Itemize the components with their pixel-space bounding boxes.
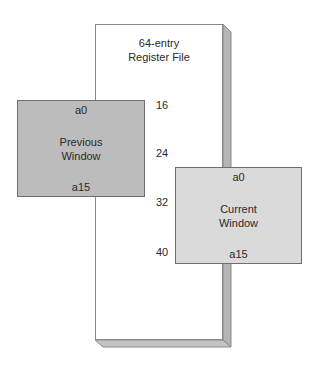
current-window-box: a0 Current Window a15 <box>175 167 302 264</box>
current-window-label-line1: Current <box>176 202 301 216</box>
index-label-16: 16 <box>152 99 172 111</box>
previous-window-label-line1: Previous <box>18 135 144 149</box>
previous-window-top-register: a0 <box>18 104 144 116</box>
current-window-top-register: a0 <box>176 171 301 183</box>
register-file-title-line1: 64-entry <box>95 36 223 50</box>
previous-window-label-line2: Window <box>18 149 144 163</box>
register-file-title-line2: Register File <box>95 50 223 64</box>
current-window-label: Current Window <box>176 202 301 230</box>
register-file-title: 64-entry Register File <box>95 36 223 64</box>
index-label-24: 24 <box>152 147 172 159</box>
previous-window-box: a0 Previous Window a15 <box>17 100 145 197</box>
previous-window-bottom-register: a15 <box>18 181 144 193</box>
index-label-40: 40 <box>152 246 172 258</box>
index-label-32: 32 <box>152 196 172 208</box>
current-window-label-line2: Window <box>176 216 301 230</box>
current-window-bottom-register: a15 <box>176 248 301 260</box>
previous-window-label: Previous Window <box>18 135 144 163</box>
